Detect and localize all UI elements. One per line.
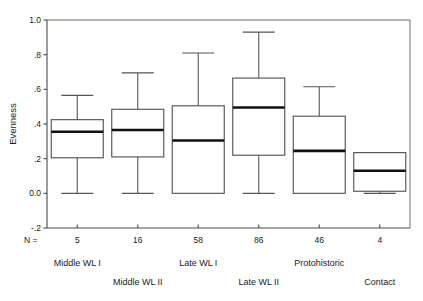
sample-count-label: 5 (75, 235, 80, 245)
y-axis-title: Evenness (7, 103, 18, 145)
box-plot-item (112, 73, 164, 193)
box-plot-chart: 1.0.8.6.4.20.0-.2EvennessN =5Middle WL I… (0, 0, 423, 301)
box-iqr (112, 109, 164, 157)
box-iqr (51, 120, 103, 158)
x-axis-category-label: Protohistoric (294, 258, 345, 268)
y-axis-tick-label: .2 (34, 154, 41, 164)
box-plot-item (293, 87, 345, 194)
box-iqr (293, 116, 345, 193)
sample-count-label: 86 (254, 235, 264, 245)
x-axis-category-label: Middle WL II (113, 277, 163, 287)
box-plot-item (354, 153, 406, 194)
y-axis-tick-label: .8 (34, 50, 41, 60)
x-axis-category-label: Middle WL I (54, 258, 101, 268)
x-axis-category-label: Late WL II (238, 277, 279, 287)
box-plot-item (172, 53, 224, 193)
box-plot-item (233, 32, 285, 193)
sample-count-label: 46 (315, 235, 325, 245)
sample-count-label: 16 (133, 235, 143, 245)
y-axis-tick-label: 1.0 (29, 15, 41, 25)
x-axis-category-label: Contact (364, 277, 396, 287)
sample-count-label: 58 (194, 235, 204, 245)
box-iqr (233, 78, 285, 155)
box-plot-item (51, 95, 103, 193)
y-axis-tick-label: .4 (34, 119, 41, 129)
n-equals-label: N = (24, 235, 38, 245)
y-axis-tick-label: .6 (34, 84, 41, 94)
y-axis-tick-label: -.2 (31, 223, 41, 233)
x-axis-category-label: Late WL I (179, 258, 217, 268)
plot-area: 1.0.8.6.4.20.0-.2EvennessN =5Middle WL I… (0, 0, 423, 301)
y-axis-tick-label: 0.0 (29, 188, 41, 198)
box-iqr (172, 106, 224, 194)
sample-count-label: 4 (377, 235, 382, 245)
